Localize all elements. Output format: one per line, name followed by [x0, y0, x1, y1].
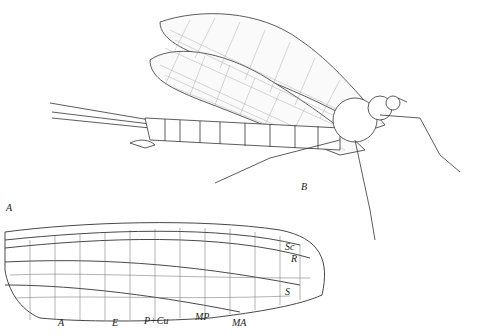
wing-venation-diagram — [0, 0, 477, 336]
panel-b-label: B — [301, 182, 307, 192]
vein-label-sc: Sc — [285, 242, 294, 252]
panel-a-label: A — [6, 203, 12, 213]
vein-label-mp: MP — [195, 312, 209, 322]
vein-label-r: R — [291, 254, 297, 264]
vein-label-a: A — [58, 318, 64, 328]
vein-label-s: S — [285, 287, 290, 297]
figure: A B Sc R S A E P+Cu MP MA — [0, 0, 477, 336]
vein-label-e: E — [112, 318, 118, 328]
vein-label-ma: MA — [232, 318, 246, 328]
vein-label-p-cu: P+Cu — [144, 316, 169, 326]
